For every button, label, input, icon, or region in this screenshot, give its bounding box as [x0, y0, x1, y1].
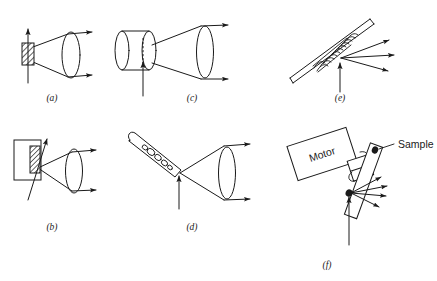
output-ray-upper	[201, 25, 228, 26]
rod-end-tip	[290, 78, 293, 83]
cone-lower-edge	[38, 168, 72, 191]
panel-c: (c)	[115, 25, 228, 104]
panel-label-c: (c)	[187, 93, 198, 104]
rod-edge-lower	[290, 19, 370, 78]
panel-label-f: (f)	[323, 260, 332, 271]
coil-outline-lower	[318, 45, 351, 72]
collection-lens	[219, 147, 236, 199]
output-ray-lower	[72, 190, 96, 191]
output-ray-upper	[224, 144, 250, 146]
helical-coil	[313, 34, 358, 72]
scattered-ray-3	[341, 58, 388, 71]
collection-lens	[66, 149, 83, 193]
cone-lower-edge	[152, 63, 201, 79]
output-ray-lower	[68, 75, 92, 77]
panel-label-e: (e)	[335, 93, 346, 104]
panel-label-a: (a)	[46, 93, 57, 104]
rod-edge-upper	[293, 24, 374, 83]
panel-b: (b)	[14, 139, 96, 233]
cylinder-front-ellipse	[142, 31, 156, 70]
panel-label-b: (b)	[46, 222, 57, 233]
cone-upper-edge	[180, 146, 224, 173]
figure-root: (a) (b)	[0, 0, 437, 281]
hatched-sample-block	[30, 146, 40, 173]
particle-cluster	[141, 144, 173, 171]
sample-label: Sample	[398, 138, 434, 150]
cylinder-back-ellipse	[115, 31, 129, 70]
panel-e: (e)	[290, 19, 394, 104]
particle-5	[167, 164, 174, 170]
cone-upper-edge	[152, 26, 201, 45]
collection-lens	[62, 32, 80, 78]
panel-d: (d)	[128, 132, 250, 233]
output-ray-upper	[72, 150, 96, 152]
cone-lower-edge	[180, 173, 224, 200]
figure-canvas: (a) (b)	[0, 0, 437, 281]
panel-f: Motor Sample	[287, 127, 434, 271]
motor-box: Motor	[287, 127, 357, 180]
rod-end-far	[370, 19, 374, 24]
collection-lens	[197, 26, 214, 78]
panel-label-d: (d)	[186, 222, 197, 233]
panel-a: (a)	[22, 29, 92, 104]
